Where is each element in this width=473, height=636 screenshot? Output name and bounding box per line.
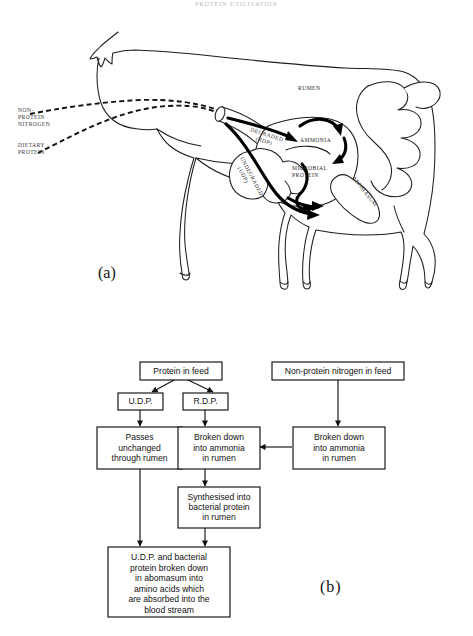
flowbox-broken-down-rdp-line2: into ammonia: [193, 443, 245, 453]
label-non-protein-nitrogen-line3: NITROGEN: [18, 121, 50, 127]
non-protein-nitrogen-path: [30, 100, 218, 114]
flowbox-absorbed-line4: amino acids which: [134, 584, 204, 594]
flowbox-synthesised-line2: bacterial protein: [188, 502, 249, 512]
flowbox-broken-down-npn-line1: Broken down: [314, 432, 364, 442]
flowbox-broken-down-npn-line2: into ammonia: [313, 443, 365, 453]
flowbox-broken-down-npn: Broken down into ammonia in rumen: [293, 427, 385, 469]
label-microbial-protein-line2: PROTEIN: [292, 172, 319, 178]
label-non-protein-nitrogen-line2: PROTEIN: [18, 114, 45, 120]
flowbox-synthesised-line3: in rumen: [202, 512, 236, 522]
label-dietary-protein-line1: DIETARY: [18, 142, 45, 148]
flowbox-protein-in-feed: Protein in feed: [140, 362, 222, 380]
flowbox-synthesised: Synthesised into bacterial protein in ru…: [178, 487, 260, 528]
flowbox-non-protein-nitrogen-label: Non-protein nitrogen in feed: [285, 366, 392, 376]
label-ammonia: AMMONIA: [300, 137, 331, 143]
label-non-protein-nitrogen-line1: NON-: [18, 107, 34, 113]
label-rumen: RUMEN: [298, 85, 320, 91]
flowbox-passes-unchanged: Passes unchanged through rumen: [97, 427, 182, 469]
cow-anatomy-svg: NON- PROTEIN NITROGEN DIETARY PROTEIN RU…: [0, 18, 473, 318]
label-microbial-protein-line1: MICROBIAL: [292, 165, 328, 171]
flowbox-passes-unchanged-line2: unchanged: [118, 443, 161, 453]
flowbox-broken-down-rdp-line1: Broken down: [194, 432, 244, 442]
flowbox-synthesised-line1: Synthesised into: [187, 492, 250, 502]
figure-b-flowchart: Protein in feed Non-protein nitrogen in …: [0, 350, 473, 636]
flowbox-absorbed-line1: U.D.P. and bacterial: [131, 552, 207, 562]
flowbox-absorbed-line2: protein broken down: [130, 563, 208, 573]
running-head: PROTEIN UTILISATION: [0, 0, 473, 7]
figure-page: PROTEIN UTILISATION: [0, 0, 473, 636]
flowbox-rdp-label: R.D.P.: [193, 396, 217, 406]
flowbox-rdp: R.D.P.: [183, 393, 228, 410]
flowbox-broken-down-rdp-line3: in rumen: [202, 453, 236, 463]
flowbox-non-protein-nitrogen: Non-protein nitrogen in feed: [272, 362, 404, 380]
flowbox-udp: U.D.P.: [118, 393, 163, 410]
flowbox-absorbed-line3: in abomasum into: [135, 573, 203, 583]
dietary-protein-path: [38, 106, 216, 153]
flowbox-passes-unchanged-line3: through rumen: [112, 453, 168, 463]
figure-b-letter: (b): [320, 578, 342, 596]
protein-flowchart-svg: Protein in feed Non-protein nitrogen in …: [0, 350, 473, 636]
flowbox-protein-in-feed-label: Protein in feed: [153, 366, 209, 376]
flowbox-absorbed-line5: are absorbed into the: [128, 594, 209, 604]
label-dietary-protein-line2: PROTEIN: [18, 149, 45, 155]
figure-a-letter: (a): [98, 264, 116, 282]
flowbox-udp-label: U.D.P.: [128, 396, 152, 406]
flowbox-passes-unchanged-line1: Passes: [125, 432, 153, 442]
small-intestine: [356, 82, 440, 197]
flowbox-absorbed: U.D.P. and bacterial protein broken down…: [108, 547, 230, 617]
flowbox-absorbed-line6: blood stream: [144, 605, 194, 615]
flowbox-broken-down-rdp: Broken down into ammonia in rumen: [178, 427, 260, 469]
figure-a-cow-diagram: NON- PROTEIN NITROGEN DIETARY PROTEIN RU…: [0, 18, 473, 318]
flowbox-broken-down-npn-line3: in rumen: [322, 453, 356, 463]
